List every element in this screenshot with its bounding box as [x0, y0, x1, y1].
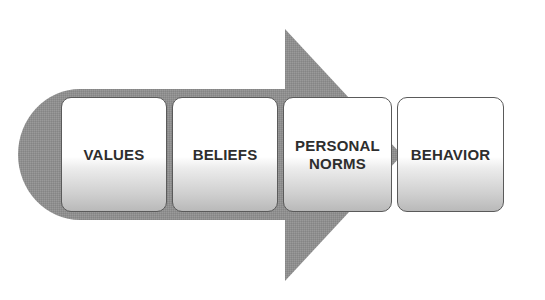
step-label: BELIEFS	[193, 146, 258, 164]
step-box-behavior: BEHAVIOR	[397, 97, 504, 212]
step-box-personal-norms: PERSONAL NORMS	[283, 97, 392, 212]
step-label: PERSONAL NORMS	[295, 137, 380, 173]
step-label: VALUES	[84, 146, 145, 164]
value-belief-norm-diagram: VALUES BELIEFS PERSONAL NORMS BEHAVIOR	[0, 0, 545, 300]
step-box-values: VALUES	[61, 97, 167, 212]
step-label: BEHAVIOR	[411, 146, 491, 164]
step-box-beliefs: BELIEFS	[172, 97, 278, 212]
